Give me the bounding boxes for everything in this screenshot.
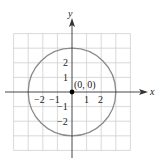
center-label: (0, 0) bbox=[74, 79, 96, 91]
x-tick-label: 2 bbox=[98, 94, 103, 105]
axes bbox=[5, 22, 144, 158]
x-tick-label: 1 bbox=[84, 94, 89, 105]
y-tick-label: 2 bbox=[63, 57, 68, 68]
x-tick-label: −2 bbox=[34, 94, 45, 105]
coordinate-plane: x y −2 −1 1 2 2 1 −1 −2 (0, 0) bbox=[0, 0, 161, 161]
y-axis-label: y bbox=[67, 8, 73, 19]
y-tick-label: 1 bbox=[63, 72, 68, 83]
y-tick-label: −1 bbox=[57, 101, 68, 112]
x-axis-label: x bbox=[149, 86, 155, 97]
y-tick-label: −2 bbox=[57, 116, 68, 127]
center-point bbox=[70, 90, 75, 95]
